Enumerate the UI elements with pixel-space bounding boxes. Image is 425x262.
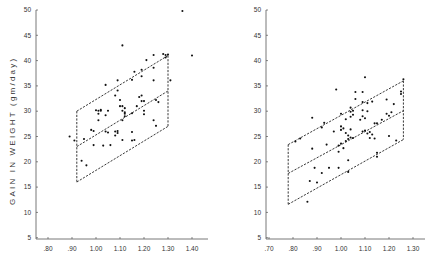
data-point (340, 125, 342, 127)
data-point (100, 109, 102, 111)
data-point (145, 59, 147, 61)
data-point (359, 119, 361, 121)
data-point (366, 110, 368, 112)
data-point (153, 67, 155, 69)
y-tick-label: 25 (254, 133, 262, 140)
data-point (165, 57, 167, 59)
data-point (326, 144, 328, 146)
data-point (294, 141, 296, 143)
data-point (311, 148, 313, 150)
data-point (374, 137, 376, 139)
x-tick-label: 1.10 (359, 245, 372, 252)
data-point (333, 130, 335, 132)
data-point (124, 107, 126, 109)
data-point (347, 171, 349, 173)
data-point (167, 53, 169, 55)
data-point (366, 132, 368, 134)
data-point (354, 98, 356, 100)
data-point (338, 167, 340, 169)
y-tick-label: 10 (254, 209, 262, 216)
data-point (347, 159, 349, 161)
data-point (352, 110, 354, 112)
data-point (400, 90, 402, 92)
data-point (97, 113, 99, 115)
y-tick-label: 40 (254, 57, 262, 64)
y-tick-label: 5 (257, 234, 261, 241)
y-tick-label: 5 (27, 234, 31, 241)
x-tick-label: 1.00 (335, 245, 348, 252)
data-point (299, 137, 301, 139)
data-point (388, 115, 390, 117)
data-point (124, 115, 126, 117)
data-point (131, 112, 133, 114)
y-tick-label: 20 (24, 158, 32, 165)
data-point (105, 130, 107, 132)
data-point (117, 89, 119, 91)
data-point (350, 128, 352, 130)
x-tick-label: 1.30 (162, 245, 175, 252)
data-point (350, 107, 352, 109)
data-point (69, 135, 71, 137)
data-point (362, 115, 364, 117)
data-point (354, 91, 356, 93)
data-point (143, 100, 145, 102)
data-point (364, 117, 366, 119)
figure: 5101520253035404550.80.901.001.101.201.3… (0, 0, 425, 262)
y-tick-label: 25 (24, 133, 32, 140)
data-point (155, 99, 157, 101)
data-point (366, 102, 368, 104)
y-axis-title: GAIN IN WEIGHT (gm/day) (8, 57, 17, 205)
data-point (83, 138, 85, 140)
y-tick-label: 35 (24, 82, 32, 89)
y-tick-label: 15 (24, 183, 32, 190)
data-point (369, 131, 371, 133)
data-point (109, 144, 111, 146)
band-lower-line (77, 126, 168, 182)
data-point (85, 164, 87, 166)
y-tick-label: 50 (24, 6, 32, 13)
data-point (311, 117, 313, 119)
data-point (141, 69, 143, 71)
data-point (121, 119, 123, 121)
data-point (342, 127, 344, 129)
data-point (117, 79, 119, 81)
data-point (136, 105, 138, 107)
data-point (376, 152, 378, 154)
data-point (340, 143, 342, 145)
data-point (350, 116, 352, 118)
data-point (107, 131, 109, 133)
y-tick-label: 15 (254, 183, 262, 190)
data-point (306, 201, 308, 203)
data-point (321, 172, 323, 174)
data-point (169, 79, 171, 81)
data-point (347, 134, 349, 136)
data-point (114, 94, 116, 96)
data-point (131, 131, 133, 133)
y-tick-label: 20 (254, 158, 262, 165)
data-point (73, 139, 75, 141)
data-point (364, 129, 366, 131)
band-upper-line (77, 56, 168, 112)
data-point (181, 10, 183, 12)
data-point (362, 91, 364, 93)
data-point (376, 156, 378, 158)
data-point (393, 103, 395, 105)
data-point (388, 135, 390, 137)
data-point (141, 75, 143, 77)
data-point (131, 139, 133, 141)
x-tick-label: 1.30 (407, 245, 420, 252)
data-point (114, 130, 116, 132)
data-point (340, 129, 342, 131)
data-point (309, 180, 311, 182)
data-point (335, 88, 337, 90)
data-point (155, 125, 157, 127)
data-point (90, 129, 92, 131)
data-point (119, 105, 121, 107)
data-point (386, 113, 388, 115)
y-tick-label: 50 (254, 6, 262, 13)
data-point (350, 111, 352, 113)
data-point (323, 122, 325, 124)
y-tick-label: 10 (24, 209, 32, 216)
data-point (371, 101, 373, 103)
data-point (105, 114, 107, 116)
